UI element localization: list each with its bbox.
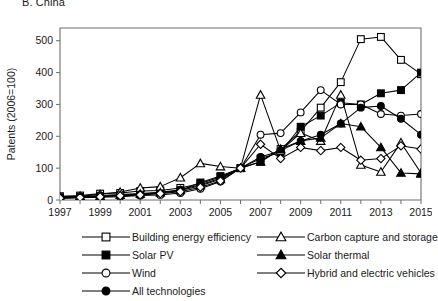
svg-text:100: 100 [35, 162, 53, 174]
legend-label: Solar thermal [307, 246, 369, 264]
series-building-energy-efficiency [57, 34, 425, 200]
legend-label: All technologies [132, 282, 206, 300]
series-wind [57, 87, 425, 202]
legend-item: Solar thermal [255, 246, 438, 264]
legend-marker-filled-circle-icon [80, 282, 132, 300]
svg-text:300: 300 [35, 98, 53, 110]
legend-item: Carbon capture and storage [255, 228, 438, 246]
legend-marker-open-triangle-icon [255, 228, 307, 246]
chart-legend: Building energy efficiencySolar PVWindAl… [0, 228, 432, 301]
svg-text:2003: 2003 [169, 206, 193, 218]
series-all-technologies [57, 103, 425, 201]
line-chart-svg: 0100200300400500Patents (2006=100)199719… [0, 0, 432, 230]
svg-text:2007: 2007 [249, 206, 273, 218]
legend-item: All technologies [80, 282, 251, 300]
svg-text:1999: 1999 [88, 206, 112, 218]
legend-marker-filled-square-icon [80, 246, 132, 264]
svg-text:Patents (2006=100): Patents (2006=100) [5, 68, 17, 161]
svg-text:2015: 2015 [409, 206, 432, 218]
svg-text:2005: 2005 [209, 206, 233, 218]
legend-item: Building energy efficiency [80, 228, 251, 246]
legend-marker-filled-triangle-icon [255, 246, 307, 264]
svg-text:2011: 2011 [329, 206, 352, 218]
legend-item: Wind [80, 264, 251, 282]
legend-marker-open-square-icon [80, 228, 132, 246]
legend-item: Hybrid and electric vehicles [255, 264, 438, 282]
svg-text:2013: 2013 [369, 206, 393, 218]
svg-text:500: 500 [35, 34, 53, 46]
svg-text:2001: 2001 [129, 206, 153, 218]
legend-column-1: Building energy efficiencySolar PVWindAl… [80, 228, 251, 300]
svg-text:0: 0 [47, 194, 53, 206]
svg-text:2009: 2009 [289, 206, 313, 218]
svg-text:400: 400 [35, 66, 53, 78]
legend-marker-open-diamond-icon [255, 264, 307, 282]
legend-column-2: Carbon capture and storageSolar thermalH… [255, 228, 438, 282]
svg-text:1997: 1997 [48, 206, 72, 218]
legend-marker-open-circle-icon [80, 264, 132, 282]
plot-area: 0100200300400500Patents (2006=100)199719… [0, 0, 432, 230]
series-solar-thermal [56, 119, 426, 201]
legend-label: Wind [132, 264, 156, 282]
legend-label: Carbon capture and storage [307, 228, 438, 246]
legend-label: Solar PV [132, 246, 173, 264]
legend-item: Solar PV [80, 246, 251, 264]
legend-label: Hybrid and electric vehicles [307, 264, 435, 282]
legend-label: Building energy efficiency [132, 228, 251, 246]
svg-text:200: 200 [35, 130, 53, 142]
